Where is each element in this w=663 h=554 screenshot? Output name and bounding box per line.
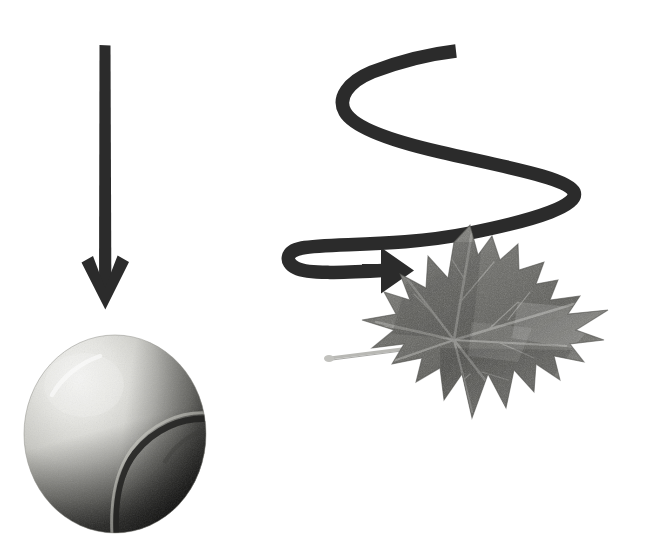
maple-leaf xyxy=(322,222,612,457)
leaf-stem-tip xyxy=(324,355,334,362)
leaf-grain-texture xyxy=(322,222,612,457)
leaf-detail-group xyxy=(322,222,612,457)
illustration-canvas xyxy=(0,0,663,554)
